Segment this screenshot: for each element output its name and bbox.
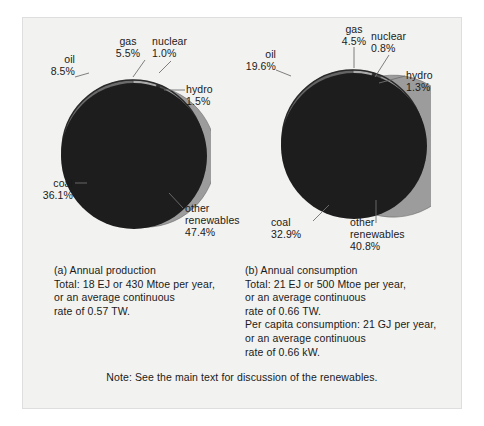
label-nuclear-b: nuclear 0.8%: [371, 30, 441, 54]
label-nuclear-b-text: nuclear: [371, 30, 406, 42]
label-coal-b-text: coal: [271, 216, 291, 228]
label-nuclear-b-value: 0.8%: [371, 42, 395, 54]
label-other-b-value: 40.8%: [350, 240, 380, 252]
caption-production: (a) Annual production Total: 18 EJ or 43…: [54, 264, 254, 318]
label-oil-b: oil 19.6%: [218, 48, 276, 72]
figure-panel: oil 8.5% gas 5.5% nuclear 1.0% hydro 1.5…: [22, 17, 462, 409]
label-other-b-text: other: [350, 216, 374, 228]
figure-note: Note: See the main text for discussion o…: [23, 371, 461, 383]
label-coal-b-value: 32.9%: [271, 228, 301, 240]
label-hydro-b-value: 1.3%: [406, 81, 430, 93]
label-gas-b-text: gas: [345, 23, 362, 35]
label-coal-b: coal 32.9%: [271, 216, 331, 240]
caption-consumption: (b) Annual consumption Total: 21 EJ or 5…: [245, 264, 460, 359]
label-oil-b-value: 19.6%: [246, 60, 276, 72]
label-other-b: other renewables 40.8%: [350, 216, 440, 253]
label-hydro-b: hydro 1.3%: [406, 69, 466, 93]
label-oil-b-text: oil: [265, 48, 276, 60]
label-gas-b-value: 4.5%: [342, 35, 366, 47]
label-other-b-text2: renewables: [350, 228, 405, 240]
label-hydro-b-text: hydro: [406, 69, 433, 81]
